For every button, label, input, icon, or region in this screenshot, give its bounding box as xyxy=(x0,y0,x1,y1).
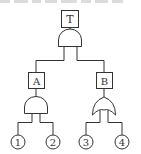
basic-event-label-2: 2 xyxy=(50,137,56,148)
basic-event-label-1: 1 xyxy=(15,137,21,148)
fault-tree-diagram: T A B 1 2 3 4 xyxy=(0,0,141,154)
connector-line xyxy=(77,47,104,73)
or-gate-icon xyxy=(93,97,116,115)
connector-line xyxy=(36,47,64,73)
basic-event-label-4: 4 xyxy=(119,137,125,148)
event-label-a: A xyxy=(32,76,41,87)
event-label-b: B xyxy=(101,76,108,87)
and-gate-icon xyxy=(59,29,82,46)
connector-line xyxy=(40,114,53,136)
basic-event-label-3: 3 xyxy=(83,137,89,148)
connector-line xyxy=(18,114,32,136)
and-gate-icon xyxy=(25,97,48,114)
top-event-label: T xyxy=(66,13,74,26)
